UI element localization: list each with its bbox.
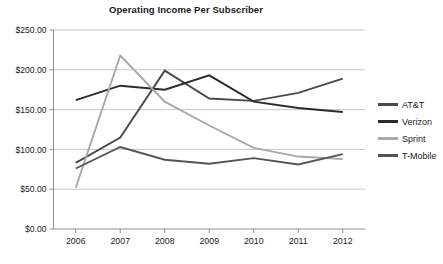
x-tick-label: 2009 (199, 236, 219, 246)
legend-item-sprint: Sprint (378, 130, 443, 147)
data-series (76, 55, 343, 187)
legend-swatch-verizon (378, 120, 398, 122)
legend-item-tmobile: T-Mobile (378, 147, 443, 164)
legend-label-att: AT&T (402, 100, 424, 110)
y-tick-label: $0.00 (25, 224, 47, 234)
y-tick-label: $100.00 (15, 145, 46, 155)
legend-swatch-tmobile (378, 154, 398, 156)
x-tick-label: 2006 (66, 236, 86, 246)
y-tick-label: $250.00 (15, 25, 46, 35)
legend-swatch-att (378, 103, 398, 105)
y-tick-label: $50.00 (20, 184, 47, 194)
legend-label-verizon: Verizon (402, 117, 432, 127)
legend-label-tmobile: T-Mobile (402, 151, 437, 161)
axes (50, 30, 366, 233)
x-tick-label: 2012 (333, 236, 353, 246)
chart-container: Operating Income Per Subscriber $0.00$50… (0, 0, 443, 264)
x-tick-label: 2007 (110, 236, 130, 246)
legend-item-att: AT&T (378, 96, 443, 113)
series-line-t-mobile (76, 147, 343, 168)
x-axis-tick-labels: 2006200720082009201020112012 (66, 236, 353, 246)
x-tick-label: 2010 (244, 236, 264, 246)
legend-item-verizon: Verizon (378, 113, 443, 130)
y-tick-label: $200.00 (15, 65, 46, 75)
legend-label-sprint: Sprint (402, 134, 426, 144)
line-chart-plot: $0.00$50.00$100.00$150.00$200.00$250.00 … (0, 0, 443, 264)
y-axis-tick-labels: $0.00$50.00$100.00$150.00$200.00$250.00 (15, 25, 46, 234)
y-tick-label: $150.00 (15, 105, 46, 115)
x-tick-label: 2008 (155, 236, 175, 246)
legend-swatch-sprint (378, 137, 398, 139)
chart-legend: AT&T Verizon Sprint T-Mobile (378, 96, 443, 164)
series-line-verizon (76, 75, 343, 112)
x-tick-label: 2011 (289, 236, 308, 246)
